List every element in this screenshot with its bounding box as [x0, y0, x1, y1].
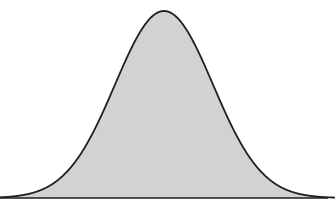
bell-curve-figure [0, 0, 335, 211]
normal-distribution-chart [0, 0, 335, 211]
